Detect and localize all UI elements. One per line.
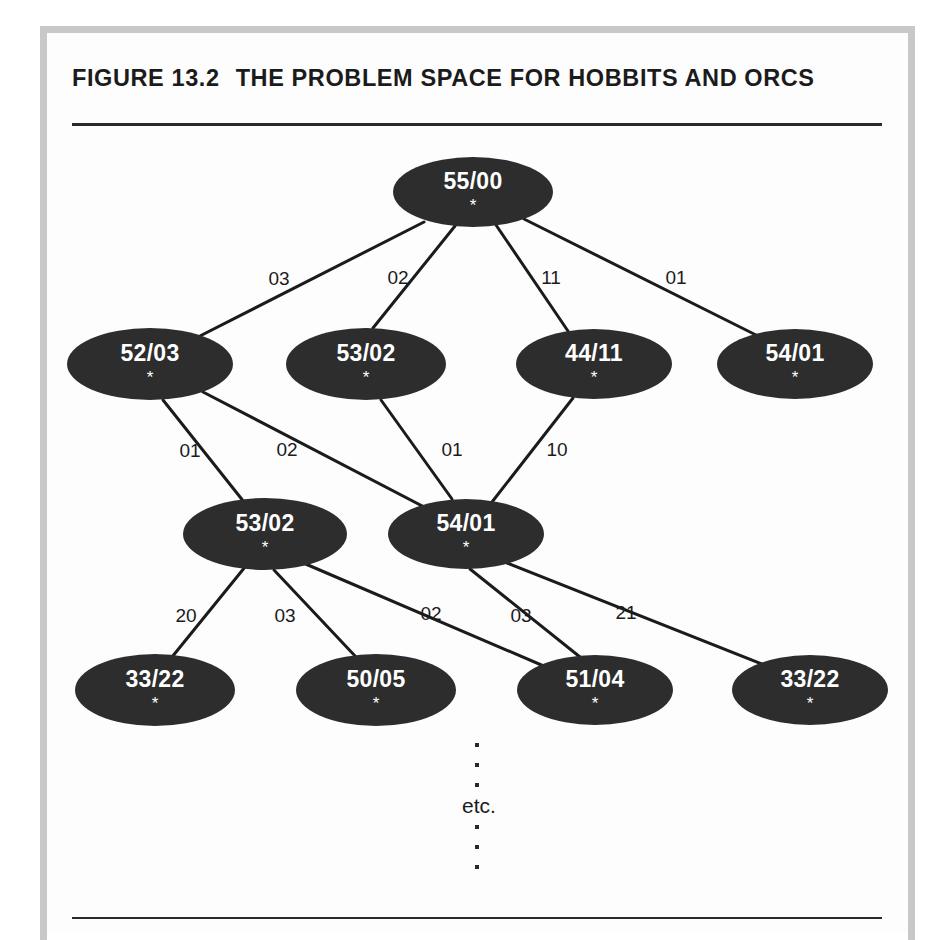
tree-edge-label: 02 <box>420 603 441 625</box>
tree-edge-label: 10 <box>546 439 567 461</box>
tree-node-star: * <box>463 539 470 556</box>
tree-edge-label: 01 <box>179 440 200 462</box>
tree-node-star: * <box>147 369 154 386</box>
tree-node-star: * <box>363 369 370 386</box>
tree-node[interactable]: 52/03* <box>67 328 233 400</box>
tree-node-star: * <box>152 695 159 712</box>
tree-node-star: * <box>262 539 269 556</box>
tree-node-label: 54/01 <box>765 342 824 365</box>
tree-edge <box>502 561 772 668</box>
tree-node-star: * <box>470 197 477 214</box>
tree-edge-label: 03 <box>268 268 289 290</box>
continuation-dot <box>475 743 479 747</box>
tree-node-star: * <box>591 369 598 386</box>
tree-node[interactable]: 44/11* <box>516 329 672 399</box>
tree-edge-label: 03 <box>274 605 295 627</box>
tree-edge-label: 21 <box>615 602 636 624</box>
tree-edge-label: 02 <box>276 439 297 461</box>
tree-node[interactable]: 33/22* <box>732 655 888 725</box>
tree-node-label: 33/22 <box>125 668 184 691</box>
tree-edge-label: 01 <box>665 267 686 289</box>
tree-node[interactable]: 53/02* <box>183 498 347 570</box>
tree-node[interactable]: 54/01* <box>717 329 873 399</box>
tree-node[interactable]: 51/04* <box>517 655 673 725</box>
tree-node-label: 52/03 <box>120 342 179 365</box>
tree-node-label: 55/00 <box>443 170 502 193</box>
tree-edge <box>163 400 244 502</box>
tree-node-star: * <box>373 695 380 712</box>
tree-node[interactable]: 54/01* <box>388 499 544 569</box>
tree-node-label: 44/11 <box>565 342 623 365</box>
continuation-dot <box>475 763 479 767</box>
tree-edge-label: 02 <box>387 267 408 289</box>
tree-node[interactable]: 33/22* <box>75 654 235 726</box>
continuation-label: etc. <box>462 794 496 818</box>
continuation-dot <box>475 865 479 869</box>
tree-node[interactable]: 53/02* <box>286 328 446 400</box>
tree-node-label: 53/02 <box>336 342 395 365</box>
tree-node-label: 54/01 <box>436 512 495 535</box>
tree-edge-label: 01 <box>441 439 462 461</box>
tree-node-label: 33/22 <box>780 668 839 691</box>
tree-node-label: 51/04 <box>565 668 624 691</box>
tree-edge-label: 11 <box>541 267 561 289</box>
continuation-dot <box>475 845 479 849</box>
tree-node-star: * <box>807 695 814 712</box>
problem-space-tree-diagram: 55/00*52/03*53/02*44/11*54/01*53/02*54/0… <box>0 0 950 940</box>
tree-node[interactable]: 55/00* <box>393 157 553 227</box>
tree-node-star: * <box>592 695 599 712</box>
tree-node-star: * <box>792 369 799 386</box>
tree-node-label: 53/02 <box>235 512 294 535</box>
tree-node[interactable]: 50/05* <box>296 654 456 726</box>
tree-edge-label: 03 <box>510 605 531 627</box>
continuation-dot <box>475 825 479 829</box>
figure-page: FIGURE 13.2THE PROBLEM SPACE FOR HOBBITS… <box>0 0 950 940</box>
tree-node-label: 50/05 <box>346 668 405 691</box>
tree-edge-label: 20 <box>175 605 196 627</box>
continuation-dot <box>475 783 479 787</box>
